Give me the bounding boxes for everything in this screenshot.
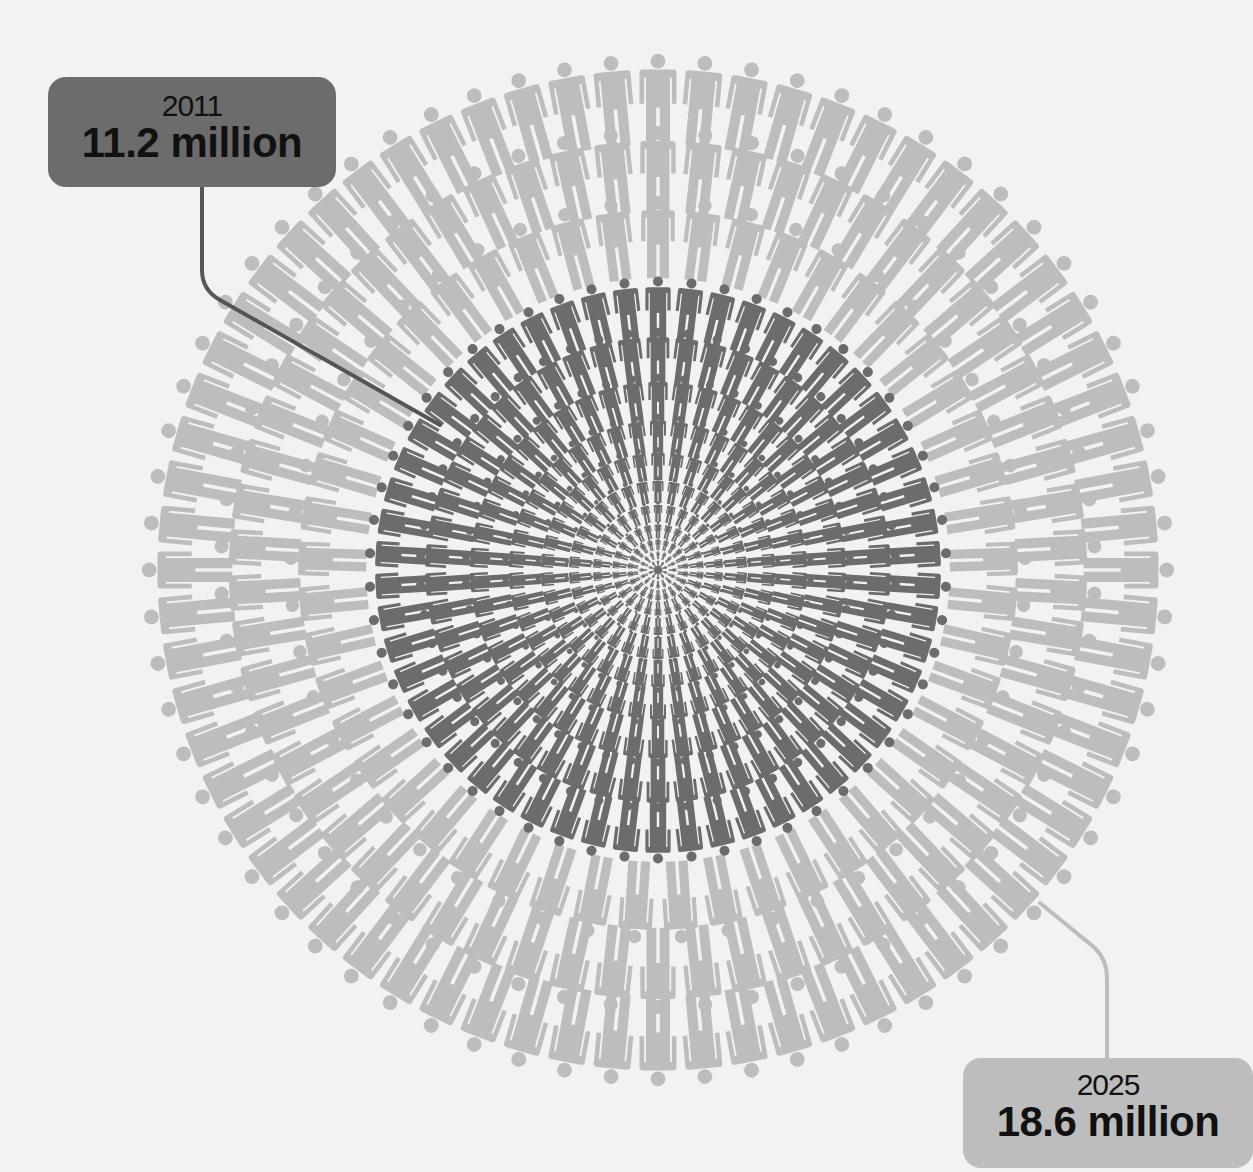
person-icon: [662, 600, 672, 618]
person-icon: [655, 590, 660, 602]
person-icon: [724, 556, 752, 569]
person-icon: [654, 618, 662, 639]
person-icon: [666, 448, 685, 483]
person-icon: [535, 553, 569, 569]
person-icon: [639, 568, 647, 571]
person-icon: [743, 586, 778, 607]
person-icon: [657, 574, 660, 580]
person-icon: [1084, 552, 1175, 589]
center-dot: [654, 566, 662, 574]
person-icon: [669, 568, 677, 571]
person-icon: [677, 563, 690, 570]
person-icon: [626, 563, 639, 570]
person-icon: [612, 578, 630, 590]
person-icon: [643, 522, 653, 540]
person-icon: [681, 653, 704, 689]
population-2011-rings: [364, 277, 951, 864]
person-icon: [589, 559, 610, 570]
person-icon: [640, 928, 675, 1014]
person-icon: [655, 522, 662, 538]
person-icon: [626, 612, 642, 634]
person-icon: [702, 581, 724, 595]
person-icon: [659, 561, 665, 567]
person-icon: [643, 555, 651, 563]
label-2011: 2011 11.2 million: [48, 77, 336, 187]
person-icon: [628, 576, 641, 586]
person-icon: [646, 588, 654, 601]
person-icon: [661, 570, 668, 574]
person-icon: [687, 550, 705, 562]
person-icon: [626, 506, 642, 528]
person-icon: [718, 59, 771, 155]
person-icon: [654, 502, 662, 523]
person-icon: [612, 550, 630, 562]
person-icon: [566, 539, 595, 557]
person-icon: [566, 583, 595, 601]
person-icon: [679, 197, 723, 283]
label-2011-value: 11.2 million: [48, 121, 336, 165]
person-icon: [631, 658, 650, 693]
person-icon: [681, 452, 704, 488]
person-icon: [689, 561, 706, 570]
person-icon: [661, 538, 669, 551]
person-icon: [640, 502, 652, 524]
person-icon: [537, 533, 572, 554]
person-icon: [659, 572, 665, 578]
person-icon: [545, 59, 598, 155]
person-icon: [564, 571, 592, 584]
person-icon: [747, 571, 781, 587]
person-icon: [665, 577, 673, 585]
person-icon: [667, 573, 676, 579]
person-icon: [747, 553, 781, 569]
person-icon: [743, 533, 778, 554]
person-icon: [718, 985, 771, 1081]
person-icon: [665, 477, 681, 505]
person-icon: [724, 571, 752, 584]
person-icon: [721, 539, 750, 557]
person-icon: [640, 573, 649, 579]
person-icon: [592, 545, 614, 559]
person-icon: [651, 561, 657, 567]
person-icon: [612, 452, 635, 488]
person-icon: [535, 571, 569, 587]
person-icon: [628, 554, 641, 564]
person-icon: [675, 576, 688, 586]
person-icon: [721, 583, 750, 601]
person-icon: [649, 552, 655, 561]
connector-2025-line: [1040, 903, 1107, 1058]
person-icon: [664, 616, 676, 638]
person-icon: [640, 616, 652, 638]
person-icon: [655, 602, 662, 618]
person-icon: [655, 538, 660, 550]
person-icon: [705, 559, 726, 570]
label-2025-value: 18.6 million: [963, 1100, 1253, 1144]
person-icon: [705, 571, 726, 582]
person-icon: [592, 581, 614, 595]
person-icon: [612, 653, 635, 689]
person-icon: [635, 635, 651, 663]
person-icon: [656, 551, 659, 559]
person-icon: [653, 476, 664, 503]
person-icon: [643, 600, 653, 618]
person-icon: [640, 561, 649, 567]
person-icon: [594, 197, 638, 283]
person-icon: [687, 578, 705, 590]
person-icon: [702, 545, 724, 559]
person-icon: [657, 560, 660, 566]
person-icon: [610, 571, 627, 580]
person-icon: [653, 637, 664, 664]
person-icon: [643, 577, 651, 585]
person-icon: [677, 570, 690, 577]
person-icon: [589, 571, 610, 582]
person-icon: [667, 561, 676, 567]
person-icon: [675, 554, 688, 564]
person-icon: [674, 506, 690, 528]
person-icon: [661, 588, 669, 601]
person-icon: [674, 612, 690, 634]
person-icon: [610, 561, 627, 570]
person-icon: [545, 985, 598, 1081]
person-icon: [646, 538, 654, 551]
person-icon: [631, 448, 650, 483]
person-icon: [626, 570, 639, 577]
person-icon: [656, 581, 659, 589]
